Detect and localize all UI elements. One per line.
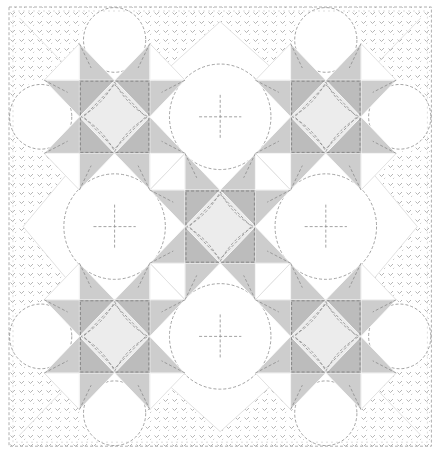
quilt-illustration — [0, 0, 435, 454]
quilt-figure: Star quilt illustration — [0, 0, 435, 454]
